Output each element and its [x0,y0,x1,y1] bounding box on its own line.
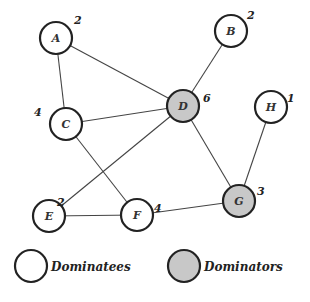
edge-C-D [66,106,183,124]
node-degree-label: 6 [203,92,211,105]
node-degree-label: 4 [34,106,42,119]
nodes: A2B2C4D6H1E2F4G3 [33,9,295,232]
node-label: E [44,210,54,223]
legend-dominator-circle [168,250,200,282]
node-degree-label: 2 [56,196,65,209]
node-label: A [51,32,61,45]
node-degree-label: 3 [257,185,265,198]
node-label: G [234,195,243,208]
node-label: D [177,100,188,113]
node-C: C4 [34,106,82,140]
node-B: B2 [215,9,255,47]
node-H: H1 [255,91,295,123]
node-degree-label: 2 [246,9,255,22]
node-degree-label: 1 [287,92,295,105]
node-G: G3 [223,185,265,217]
edge-C-F [66,124,137,215]
node-F: F4 [121,199,162,231]
node-E: E2 [33,196,65,232]
edge-A-D [56,38,183,106]
node-degree-label: 2 [73,14,82,27]
node-degree-label: 4 [154,202,162,215]
legend: Dominatees Dominators [15,250,283,282]
legend-dominatees-label: Dominatees [50,260,131,274]
legend-dominatee-circle [15,250,47,282]
node-label: H [265,101,277,114]
node-D: D6 [167,90,211,122]
node-label: C [62,118,71,131]
node-label: B [225,25,235,38]
legend-dominators-label: Dominators [203,260,283,274]
node-label: F [132,209,142,222]
graph-diagram: A2B2C4D6H1E2F4G3 Dominatees Dominators [0,0,310,302]
